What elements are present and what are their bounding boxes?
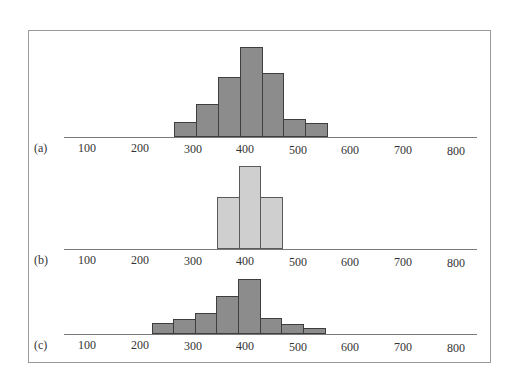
x-tick-label: 700	[394, 340, 412, 355]
x-tick-label: 700	[394, 143, 412, 158]
histogram-bar	[217, 197, 240, 249]
histogram-bar	[216, 296, 239, 334]
histogram-bar	[281, 324, 304, 334]
x-tick-label: 200	[131, 338, 149, 353]
x-tick-label: 200	[131, 141, 149, 156]
histogram-bar	[238, 279, 261, 334]
histogram-bar	[174, 122, 197, 137]
histogram-bar	[240, 47, 263, 137]
x-tick-label: 600	[341, 143, 359, 158]
panel-label: (a)	[34, 141, 47, 156]
x-tick-label: 800	[447, 341, 465, 356]
histogram-bar	[305, 123, 328, 137]
x-axis-line	[64, 137, 477, 138]
panel-label: (b)	[34, 253, 48, 268]
histogram-bar	[260, 197, 283, 249]
x-tick-label: 300	[184, 339, 202, 354]
x-axis-line	[64, 249, 477, 250]
x-tick-label: 500	[289, 340, 307, 355]
x-tick-label: 500	[289, 143, 307, 158]
x-axis-line	[64, 334, 477, 335]
x-tick-label: 400	[236, 254, 254, 269]
histogram-bar	[260, 318, 282, 334]
histogram-bar	[283, 119, 306, 137]
histogram-bar	[239, 166, 261, 249]
histogram-bar	[152, 323, 174, 334]
histogram-bar	[196, 104, 219, 137]
x-tick-label: 500	[289, 255, 307, 270]
x-tick-label: 600	[341, 255, 359, 270]
x-tick-label: 400	[236, 142, 254, 157]
panel-label: (c)	[34, 338, 47, 353]
x-tick-label: 800	[447, 256, 465, 271]
histogram-bar	[195, 313, 217, 334]
x-tick-label: 100	[78, 253, 96, 268]
x-tick-label: 700	[394, 255, 412, 270]
x-tick-label: 600	[341, 340, 359, 355]
histogram-bar	[218, 77, 241, 137]
x-tick-label: 200	[131, 253, 149, 268]
x-tick-label: 100	[78, 338, 96, 353]
histogram-bar	[262, 73, 284, 137]
histogram-bar	[173, 319, 196, 334]
x-tick-label: 400	[236, 339, 254, 354]
x-tick-label: 300	[184, 254, 202, 269]
x-tick-label: 100	[78, 141, 96, 156]
x-tick-label: 800	[447, 144, 465, 159]
x-tick-label: 300	[184, 142, 202, 157]
